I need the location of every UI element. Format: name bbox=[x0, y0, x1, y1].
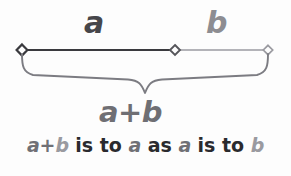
caption-token-0: a bbox=[27, 134, 40, 156]
golden-ratio-diagram: a b a+b a+b is to a as a is to b bbox=[0, 0, 291, 176]
label-segment-b: b bbox=[206, 8, 227, 38]
caption-token-1: + bbox=[39, 134, 55, 156]
endpoint-middle-diamond-icon bbox=[170, 45, 180, 55]
label-brace-total: a+b bbox=[99, 98, 162, 127]
caption-token-2: b bbox=[55, 134, 68, 156]
caption-sentence: a+b is to a as a is to b bbox=[0, 136, 291, 155]
caption-token-6: a bbox=[178, 134, 191, 156]
caption-token-4: a bbox=[129, 134, 142, 156]
label-segment-a: a bbox=[84, 8, 104, 38]
caption-token-7: is to bbox=[191, 134, 251, 156]
caption-token-5: as bbox=[141, 134, 178, 156]
total-brace bbox=[22, 54, 268, 93]
caption-token-8: b bbox=[251, 134, 264, 156]
caption-token-3: is to bbox=[69, 134, 129, 156]
